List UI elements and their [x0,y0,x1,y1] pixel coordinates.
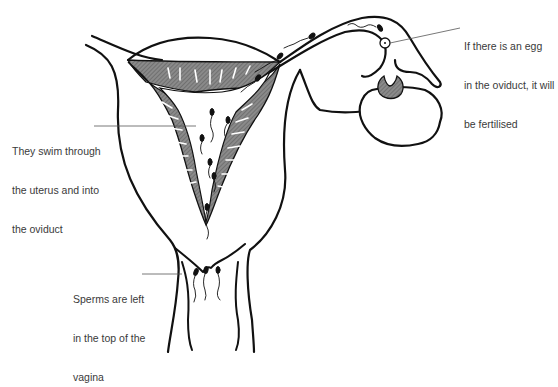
egg [380,38,390,48]
label-uterus-line-2: the uterus and into [12,184,101,197]
ovary [360,76,442,146]
label-vagina: Sperms are left in the top of the vagina [73,267,145,387]
label-uterus: They swim through the uterus and into th… [12,119,101,249]
leader-line-egg [390,28,460,43]
label-uterus-line-3: the oviduct [12,223,101,236]
label-vagina-line-2: in the top of the [73,332,145,345]
label-vagina-line-1: Sperms are left [73,293,145,306]
label-vagina-line-3: vagina [73,371,145,384]
label-egg: If there is an egg in the oviduct, it wi… [464,14,554,144]
cervix-vagina [175,244,245,350]
label-uterus-line-1: They swim through [12,145,101,158]
uterine-lining [128,60,280,225]
label-egg-line-1: If there is an egg [464,40,554,53]
label-egg-line-3: be fertilised [464,118,554,131]
follicle [378,76,403,99]
label-egg-line-2: in the oviduct, it will [464,79,554,92]
